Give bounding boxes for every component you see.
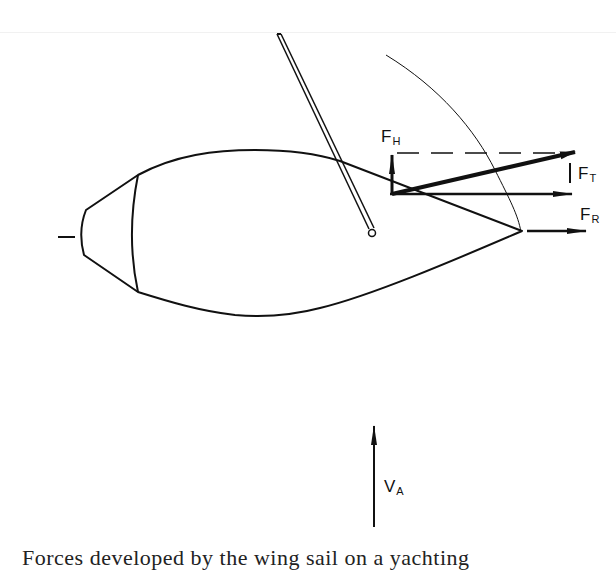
wing-sail: [277, 34, 376, 237]
total-force-arrow: [392, 152, 575, 194]
hull-outline: [81, 150, 522, 316]
bow-section-line: [132, 175, 138, 292]
label-apparent-wind: VA: [384, 478, 404, 497]
label-heeling-force: FH: [381, 128, 400, 147]
label-driving-force: FR: [580, 206, 599, 225]
label-total-force: FT: [578, 165, 596, 184]
figure-caption: Forces developed by the wing sail on a y…: [22, 545, 470, 571]
mast-pivot: [369, 230, 376, 237]
